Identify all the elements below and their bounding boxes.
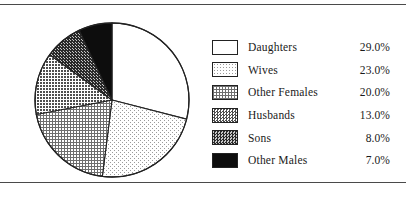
legend-item-label: Wives xyxy=(248,64,346,76)
legend-item-value: 29.0% xyxy=(346,41,390,53)
pie-chart-graphic xyxy=(34,22,190,178)
legend-item: Daughters29.0% xyxy=(212,36,390,59)
legend-swatch xyxy=(212,130,238,145)
top-divider-rule xyxy=(0,4,406,5)
legend-item: Other Females20.0% xyxy=(212,81,390,104)
legend-item-value: 7.0% xyxy=(346,154,390,166)
legend-item-label: Other Males xyxy=(248,154,346,166)
legend-item: Sons8.0% xyxy=(212,126,390,149)
legend-swatch xyxy=(212,40,238,55)
legend-item-label: Other Females xyxy=(248,86,346,98)
legend-swatch xyxy=(212,153,238,168)
legend-item-value: 20.0% xyxy=(346,86,390,98)
legend-swatch xyxy=(212,85,238,100)
bottom-divider-rule xyxy=(0,182,406,183)
legend-item-label: Sons xyxy=(248,132,346,144)
legend: Daughters29.0%Wives23.0%Other Females20.… xyxy=(212,36,390,172)
legend-item-label: Husbands xyxy=(248,109,346,121)
pie-slices-group xyxy=(35,23,189,177)
pie-svg xyxy=(34,22,190,178)
pie-chart-figure: Daughters29.0%Wives23.0%Other Females20.… xyxy=(0,0,406,198)
legend-item-label: Daughters xyxy=(248,41,346,53)
legend-swatch xyxy=(212,62,238,77)
legend-item: Other Males7.0% xyxy=(212,149,390,172)
legend-item-value: 23.0% xyxy=(346,64,390,76)
legend-item-value: 13.0% xyxy=(346,109,390,121)
legend-swatch xyxy=(212,108,238,123)
legend-item: Husbands13.0% xyxy=(212,104,390,127)
legend-item-value: 8.0% xyxy=(346,132,390,144)
legend-item: Wives23.0% xyxy=(212,59,390,82)
